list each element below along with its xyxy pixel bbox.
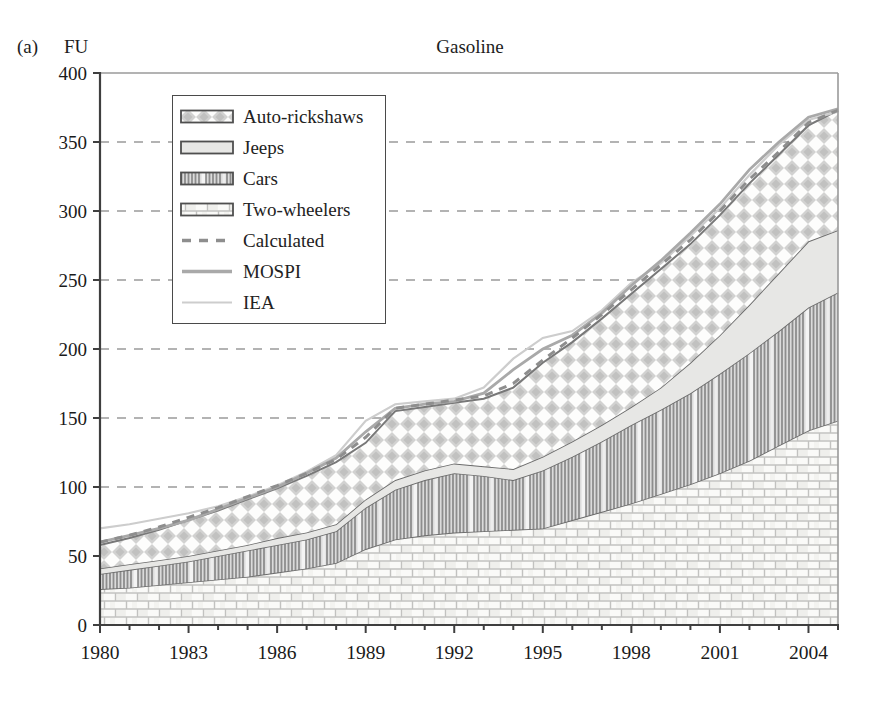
legend-label: Auto-rickshaws	[243, 106, 363, 128]
y-tick-label: 50	[68, 546, 87, 567]
legend-label: Two-wheelers	[243, 199, 350, 221]
y-tick-label: 0	[78, 615, 88, 636]
legend-label: Jeeps	[243, 137, 284, 159]
solid-line-swatch	[180, 264, 234, 279]
x-tick-label: 1992	[435, 642, 474, 663]
legend-label: Calculated	[243, 230, 324, 252]
legend-item-calculated: Calculated	[180, 230, 385, 252]
y-tick-label: 300	[59, 201, 88, 222]
gasoline-stacked-area-chart: 0501001502002503003504001980198319861989…	[0, 0, 871, 703]
vertical-stripes-swatch	[180, 171, 234, 186]
x-tick-label: 1983	[169, 642, 208, 663]
x-tick-label: 1989	[346, 642, 385, 663]
legend-label: Cars	[243, 168, 278, 190]
legend: Auto-rickshaws Jeeps Cars Two-wheelers C…	[172, 95, 386, 324]
x-tick-label: 1998	[612, 642, 651, 663]
y-tick-label: 250	[59, 270, 88, 291]
y-tick-label: 150	[59, 408, 88, 429]
legend-item-two-wheelers: Two-wheelers	[180, 199, 385, 221]
legend-item-iea: IEA	[180, 292, 385, 314]
y-tick-label: 350	[59, 132, 88, 153]
x-tick-label: 1995	[523, 642, 562, 663]
figure-panel: (a) FU Gasoline 050100150200250300350400…	[0, 0, 871, 703]
dashed-line-swatch	[180, 233, 234, 248]
legend-item-auto-rickshaws: Auto-rickshaws	[180, 106, 385, 128]
y-tick-label: 200	[59, 339, 88, 360]
y-tick-label: 400	[59, 63, 88, 84]
y-tick-label: 100	[59, 477, 88, 498]
x-tick-label: 2004	[789, 642, 828, 663]
diamond-pattern-swatch	[180, 109, 234, 124]
light-line-swatch	[180, 295, 234, 310]
x-tick-label: 1986	[258, 642, 297, 663]
plain-gray-swatch	[180, 140, 234, 155]
legend-label: MOSPI	[243, 261, 301, 283]
legend-item-jeeps: Jeeps	[180, 137, 385, 159]
legend-label: IEA	[243, 292, 275, 314]
legend-item-mospi: MOSPI	[180, 261, 385, 283]
legend-item-cars: Cars	[180, 168, 385, 190]
brick-pattern-swatch	[180, 202, 234, 217]
x-tick-label: 1980	[81, 642, 120, 663]
x-tick-label: 2001	[700, 642, 739, 663]
